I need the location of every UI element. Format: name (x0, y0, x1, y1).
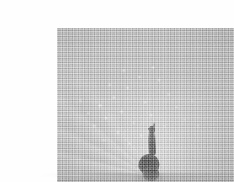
page-canvas (0, 0, 234, 182)
photo-vignette (57, 28, 234, 182)
print-smudge (35, 172, 195, 179)
peacock-photograph (57, 28, 234, 182)
